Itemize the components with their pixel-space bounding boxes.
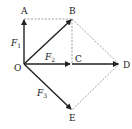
vector-f3-oe [24,64,71,109]
label-f2: F2 [44,52,55,63]
force-diagram: A B C D E O F1 F2 F3 [0,0,132,129]
label-o: O [14,63,21,73]
label-f1: F1 [10,38,21,49]
label-f3: F3 [36,88,47,99]
label-a: A [20,6,28,16]
label-d: D [123,60,130,70]
label-c: C [75,54,82,64]
label-b: B [69,6,76,16]
label-e: E [69,113,76,123]
dashed-d-e [72,64,119,110]
